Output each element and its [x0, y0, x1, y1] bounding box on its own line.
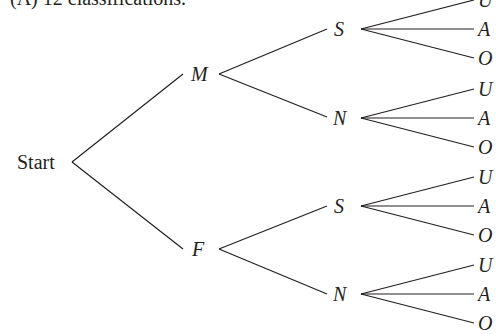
node-n-m: N: [333, 108, 346, 128]
leaf-a: A: [478, 196, 490, 216]
node-m: M: [191, 64, 208, 84]
edge-leaf: [361, 206, 474, 235]
edge-leaf: [361, 294, 474, 323]
edge-start-f: [72, 162, 183, 249]
node-f: F: [192, 239, 204, 259]
edge-f-n: [219, 249, 327, 294]
edge-m-s: [219, 29, 327, 74]
leaf-u: U: [478, 255, 492, 275]
node-start: Start: [17, 152, 55, 172]
node-n-f: N: [333, 284, 346, 304]
leaf-o: O: [478, 225, 492, 245]
leaf-u: U: [478, 0, 492, 10]
edge-leaf: [361, 177, 474, 206]
leaf-a: A: [478, 19, 490, 39]
leaf-u: U: [478, 79, 492, 99]
edge-leaf: [361, 89, 474, 118]
edge-f-s: [219, 206, 327, 249]
leaf-o: O: [478, 313, 492, 333]
node-s-f: S: [334, 196, 344, 216]
leaf-o: O: [478, 48, 492, 68]
node-s-m: S: [334, 19, 344, 39]
leaf-u: U: [478, 167, 492, 187]
leaf-o: O: [478, 137, 492, 157]
edge-leaf: [361, 29, 474, 58]
leaf-a: A: [478, 284, 490, 304]
leaf-a: A: [478, 108, 490, 128]
tree-edges: [0, 0, 501, 334]
edge-start-m: [72, 74, 183, 162]
edge-leaf: [361, 265, 474, 294]
edge-leaf: [361, 0, 474, 29]
edge-leaf: [361, 118, 474, 147]
edge-m-n: [219, 74, 327, 117]
